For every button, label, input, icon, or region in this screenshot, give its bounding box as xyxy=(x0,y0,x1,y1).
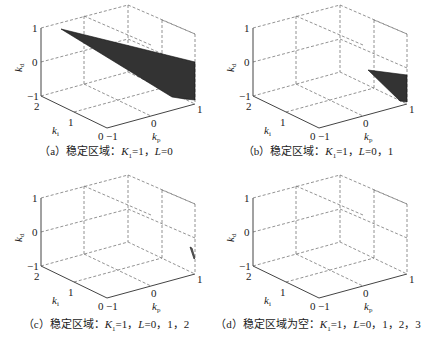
grid-lines xyxy=(41,175,195,286)
y-tick-2: 2 xyxy=(246,270,252,282)
z-axis-label: kd xyxy=(224,63,238,72)
panel-a: 1 0 −1 2 1 0 −1 0 1 kd ki kp （a）稳定区域：K1=… xyxy=(0,0,212,170)
y-tick-1: 1 xyxy=(68,286,74,298)
stability-region xyxy=(61,29,195,100)
panel-caption: （a）稳定区域：K1=1，L=0 xyxy=(0,142,212,160)
axes-lines xyxy=(253,198,407,298)
y-tick-0: 0 xyxy=(98,130,104,142)
z-axis-label: kd xyxy=(12,233,26,242)
panel-caption: （c）稳定区域：K1=1，L=0，1，2 xyxy=(0,315,212,333)
x-tick-1: 1 xyxy=(197,103,203,115)
y-axis-label: ki xyxy=(264,124,271,138)
panel-caption: （d）稳定区域为空：K1=1，L=0，1，2，3 xyxy=(212,315,423,333)
x-tick-0: 0 xyxy=(151,117,157,129)
y-tick-1: 1 xyxy=(68,116,74,128)
region-layer xyxy=(61,29,195,100)
y-tick-0: 0 xyxy=(310,130,316,142)
x-tick-1: 1 xyxy=(409,103,415,115)
z-tick-1: 1 xyxy=(244,192,250,204)
x-tick-1: 1 xyxy=(409,273,415,285)
z-tick-0: 0 xyxy=(32,56,38,68)
axes-lines xyxy=(41,198,195,298)
x-tick-0: 0 xyxy=(363,117,369,129)
y-tick-0: 0 xyxy=(98,300,104,312)
z-axis-label: kd xyxy=(12,63,26,72)
grid-lines xyxy=(253,5,407,116)
stability-region xyxy=(190,247,195,259)
z-axis-label: kd xyxy=(224,233,238,242)
region-layer xyxy=(190,247,195,259)
x-axis-label: kp xyxy=(364,300,373,314)
z-tick-1: 1 xyxy=(244,22,250,34)
y-axis-label: ki xyxy=(264,294,271,308)
panel-c: 1 0 −1 2 1 0 −1 0 1 kd ki kp （c）稳定区域：K1=… xyxy=(0,170,212,340)
y-tick-0: 0 xyxy=(310,300,316,312)
y-tick-2: 2 xyxy=(34,100,40,112)
grid-lines xyxy=(253,175,407,286)
x-tick-m1: −1 xyxy=(106,130,118,142)
x-tick-m1: −1 xyxy=(318,130,330,142)
z-tick-0: 0 xyxy=(244,56,250,68)
y-axis-label: ki xyxy=(52,294,59,308)
x-axis-label: kp xyxy=(152,300,161,314)
panel-d: 1 0 −1 2 1 0 −1 0 1 kd ki kp （d）稳定区域为空：K… xyxy=(212,170,423,340)
x-tick-1: 1 xyxy=(197,273,203,285)
z-tick-0: 0 xyxy=(244,226,250,238)
panel-caption: （b）稳定区域：K1=1，L=0，1 xyxy=(212,142,423,160)
y-tick-2: 2 xyxy=(34,270,40,282)
y-tick-1: 1 xyxy=(280,286,286,298)
y-axis-label: ki xyxy=(52,124,59,138)
z-tick-1: 1 xyxy=(32,192,38,204)
x-tick-0: 0 xyxy=(151,287,157,299)
x-tick-0: 0 xyxy=(363,287,369,299)
z-tick-0: 0 xyxy=(32,226,38,238)
z-tick-1: 1 xyxy=(32,22,38,34)
y-tick-2: 2 xyxy=(246,100,252,112)
y-tick-1: 1 xyxy=(280,116,286,128)
panel-b: 1 0 −1 2 1 0 −1 0 1 kd ki kp （b）稳定区域：K1=… xyxy=(212,0,423,170)
x-tick-m1: −1 xyxy=(106,300,118,312)
x-tick-m1: −1 xyxy=(318,300,330,312)
